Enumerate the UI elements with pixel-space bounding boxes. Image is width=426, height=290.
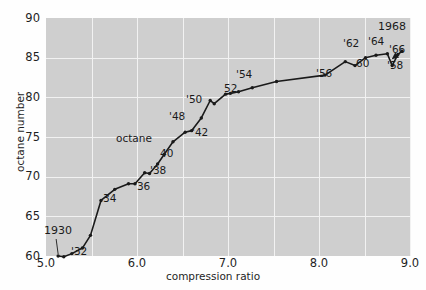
x-axis-title: compression ratio <box>0 270 426 282</box>
annotation-56: '56 <box>316 68 332 79</box>
annotation-1930: 1930 <box>44 226 72 237</box>
annotation-38: '38 <box>150 165 166 176</box>
y-axis-title: octane number <box>14 52 26 172</box>
annotation-34: 34 <box>103 193 116 204</box>
leader-line-1930 <box>56 239 58 254</box>
x-tick-5: 5.0 <box>26 258 66 269</box>
x-tick-7: 7.0 <box>208 258 248 269</box>
annotation-36: '36 <box>134 181 150 192</box>
annotation-66: '66 <box>389 44 405 55</box>
y-tick-65: 65 <box>8 211 40 222</box>
annotation-octane: octane <box>116 133 152 144</box>
annotation-64: '64 <box>368 36 384 47</box>
annotation-60: 60 <box>356 58 369 69</box>
plot-panel: 1930 '32 34 '36 '38 40 octane '42 '48 '5… <box>46 18 410 256</box>
annotation-54: '54 <box>236 69 252 80</box>
annotation-62: '62 <box>343 38 359 49</box>
annotation-40: 40 <box>160 148 173 159</box>
data-series-layer <box>46 18 410 256</box>
annotation-1968: 1968 <box>378 22 406 33</box>
y-tick-90: 90 <box>8 13 40 24</box>
annotation-48: '48 <box>169 111 185 122</box>
x-tick-8: 8.0 <box>299 258 339 269</box>
x-tick-9: 9.0 <box>390 258 426 269</box>
annotation-32: '32 <box>71 246 87 257</box>
gridline-v-9_0 <box>410 18 411 256</box>
y-tick-70: 70 <box>8 171 40 182</box>
octane-series-points <box>56 50 403 259</box>
annotation-42: '42 <box>192 127 208 138</box>
x-tick-6: 6.0 <box>117 258 157 269</box>
annotation-52: 52 <box>224 83 237 94</box>
annotation-58: '58 <box>387 60 403 71</box>
chart-figure: 90 85 80 75 70 65 60 5.0 6.0 7.0 8.0 9.0… <box>0 0 426 290</box>
annotation-50: '50 <box>186 94 202 105</box>
